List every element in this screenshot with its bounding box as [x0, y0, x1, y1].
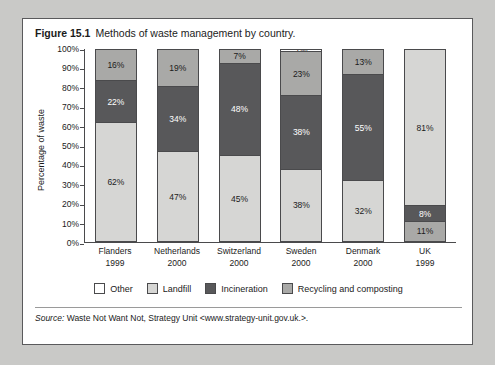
figure-title-text: Methods of waste management by country.	[95, 27, 295, 39]
legend-swatch-icon	[147, 283, 158, 294]
y-axis-tick: 30%	[62, 180, 79, 190]
bar-segment-recycling[interactable]: 13%	[342, 49, 384, 74]
country-name: Sweden	[286, 246, 317, 256]
country-year: 1999	[396, 257, 454, 269]
y-axis-tick: 10%	[62, 219, 79, 229]
bar-segment-recycling[interactable]: 23%	[280, 51, 322, 95]
y-axis-tick-mark	[80, 127, 84, 128]
figure-card: Figure 15.1Methods of waste management b…	[22, 18, 473, 345]
y-axis-tick: 40%	[62, 160, 79, 170]
bar-segment-label: 11%	[417, 226, 433, 236]
bar-column[interactable]: 81%8%11%	[404, 49, 446, 242]
country-year: 2000	[272, 257, 330, 269]
plot-area: 16%22%62%19%34%47%7%48%45%1%23%38%38%13%…	[84, 49, 456, 243]
bar-segment-incineration[interactable]: 8%	[404, 205, 446, 220]
bar-segment-label: 47%	[169, 192, 186, 202]
bar-segment-recycling[interactable]: 11%	[404, 221, 446, 242]
bar-segment-label: 32%	[355, 206, 372, 216]
bar-segment-label: 38%	[293, 127, 310, 137]
source-label: Source:	[35, 313, 64, 323]
country-name: Denmark	[346, 246, 380, 256]
source-text: Waste Not Want Not, Strategy Unit <www.s…	[67, 313, 309, 323]
legend-label: Incineration	[221, 284, 268, 294]
bar-segment-label: 19%	[169, 63, 186, 73]
y-axis-tick-mark	[80, 50, 84, 51]
bar-segment-recycling[interactable]: 16%	[95, 49, 137, 80]
country-name: Switzerland	[217, 246, 261, 256]
y-axis-tick-mark	[80, 147, 84, 148]
figure-number: Figure 15.1	[35, 27, 90, 39]
legend-item-other[interactable]: Other	[94, 283, 133, 294]
bar-column[interactable]: 19%34%47%	[157, 49, 199, 242]
stacked-bars: 16%22%62%19%34%47%7%48%45%1%23%38%38%13%…	[85, 49, 456, 242]
bar-segment-recycling[interactable]: 7%	[219, 49, 261, 63]
legend-item-recycling[interactable]: Recycling and composting	[282, 283, 403, 294]
bar-segment-incineration[interactable]: 55%	[342, 74, 384, 180]
y-axis-tick-mark	[80, 185, 84, 186]
y-axis-tick-mark	[80, 244, 84, 245]
y-axis-tick: 20%	[62, 199, 79, 209]
legend-swatch-icon	[205, 283, 216, 294]
y-axis-tick-mark	[80, 69, 84, 70]
legend-item-incineration[interactable]: Incineration	[205, 283, 268, 294]
legend-label: Landfill	[163, 284, 192, 294]
bar-segment-landfill[interactable]: 32%	[342, 180, 384, 242]
bar-segment-label: 23%	[293, 69, 310, 79]
y-axis-tick: 0%	[67, 238, 79, 248]
bar-segment-label: 55%	[355, 123, 372, 133]
x-axis-label: Switzerland2000	[210, 245, 268, 269]
y-axis-tick-mark	[80, 166, 84, 167]
figure-caption: Figure 15.1Methods of waste management b…	[35, 27, 295, 39]
bar-segment-label: 48%	[231, 104, 248, 114]
y-axis-tick-mark	[80, 88, 84, 89]
legend-swatch-icon	[282, 283, 293, 294]
country-name: UK	[419, 246, 431, 256]
bar-segment-landfill[interactable]: 45%	[219, 155, 261, 242]
bar-column[interactable]: 13%55%32%	[342, 49, 384, 242]
y-axis-tick-mark	[80, 108, 84, 109]
y-axis-tick-mark	[80, 205, 84, 206]
bar-segment-recycling[interactable]: 19%	[157, 49, 199, 86]
chart-plot-wrapper: Percentage of waste 100%90%80%70%60%50%4…	[23, 49, 474, 279]
y-axis-tick: 50%	[62, 141, 79, 151]
x-axis-label: Netherlands2000	[148, 245, 206, 269]
y-axis-tick: 70%	[62, 102, 79, 112]
y-axis-tick: 100%	[57, 44, 79, 54]
bar-segment-label: 22%	[107, 97, 124, 107]
bar-column[interactable]: 1%23%38%38%	[280, 49, 322, 242]
source-divider	[35, 307, 462, 308]
bar-segment-landfill[interactable]: 81%	[404, 49, 446, 205]
y-axis-tick: 60%	[62, 122, 79, 132]
bar-segment-incineration[interactable]: 38%	[280, 95, 322, 168]
y-axis-tick: 90%	[62, 63, 79, 73]
bar-segment-label: 16%	[107, 60, 124, 70]
source-note: Source: Waste Not Want Not, Strategy Uni…	[35, 313, 308, 323]
chart-legend: OtherLandfillIncinerationRecycling and c…	[23, 283, 474, 294]
country-year: 2000	[210, 257, 268, 269]
country-year: 1999	[86, 257, 144, 269]
x-axis-label: Sweden2000	[272, 245, 330, 269]
y-axis-tick-mark	[80, 224, 84, 225]
legend-label: Other	[110, 284, 133, 294]
x-axis-tick-labels: Flanders1999Netherlands2000Switzerland20…	[84, 245, 456, 269]
bar-segment-landfill[interactable]: 47%	[157, 151, 199, 242]
bar-segment-incineration[interactable]: 34%	[157, 86, 199, 152]
legend-item-landfill[interactable]: Landfill	[147, 283, 192, 294]
bar-segment-incineration[interactable]: 22%	[95, 80, 137, 122]
bar-segment-landfill[interactable]: 62%	[95, 122, 137, 242]
bar-segment-label: 38%	[293, 200, 310, 210]
bar-segment-landfill[interactable]: 38%	[280, 169, 322, 242]
bar-column[interactable]: 7%48%45%	[219, 49, 261, 242]
legend-swatch-icon	[94, 283, 105, 294]
bar-segment-label: 62%	[107, 177, 124, 187]
bar-segment-label: 34%	[169, 114, 186, 124]
bar-segment-label: 81%	[417, 123, 434, 133]
bar-segment-label: 8%	[419, 209, 431, 219]
bar-column[interactable]: 16%22%62%	[95, 49, 137, 242]
y-axis-tick: 80%	[62, 83, 79, 93]
y-axis-tick-labels: 100%90%80%70%60%50%40%30%20%10%0%	[39, 49, 79, 243]
bar-segment-incineration[interactable]: 48%	[219, 63, 261, 156]
x-axis-label: Denmark2000	[334, 245, 392, 269]
country-name: Flanders	[98, 246, 131, 256]
country-year: 2000	[148, 257, 206, 269]
